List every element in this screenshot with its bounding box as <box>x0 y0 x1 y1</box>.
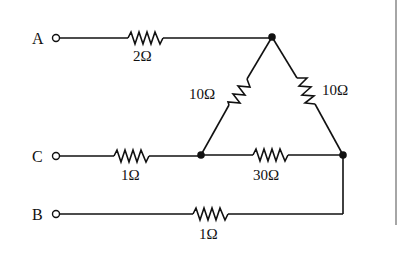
label-rb: 1Ω <box>199 226 218 242</box>
wire-c <box>60 150 202 162</box>
terminal-b <box>53 211 60 218</box>
resistor-30-ohm <box>253 149 288 161</box>
resistor-2-ohm-a <box>128 32 163 44</box>
terminal-label-c: C <box>32 148 43 165</box>
circuit-diagram: A 2Ω 10Ω 10Ω C 1Ω <box>0 0 398 261</box>
resistor-1-ohm-c <box>114 150 149 162</box>
label-r-bottom: 30Ω <box>253 167 279 183</box>
terminal-label-b: B <box>32 206 43 223</box>
label-r-right: 10Ω <box>322 82 348 98</box>
wire-a <box>60 32 273 44</box>
label-rc: 1Ω <box>121 167 140 183</box>
label-ra: 2Ω <box>133 48 152 64</box>
resistor-10-ohm-right <box>297 78 315 104</box>
resistor-1-ohm-b <box>193 208 228 220</box>
label-r-left: 10Ω <box>189 86 215 102</box>
terminal-label-a: A <box>32 30 44 47</box>
terminal-c <box>53 153 60 160</box>
wire-b <box>60 208 344 220</box>
circuit-svg: A 2Ω 10Ω 10Ω C 1Ω <box>0 0 398 261</box>
terminal-a <box>53 35 60 42</box>
resistor-10-ohm-left <box>228 79 250 105</box>
branch-bottom-30 <box>201 149 343 161</box>
